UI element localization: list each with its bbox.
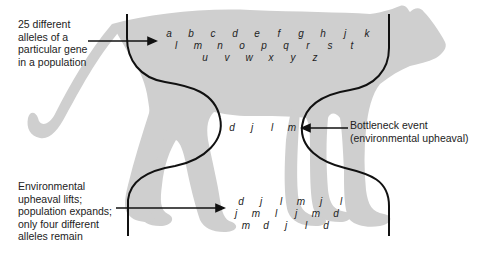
- allele: s: [319, 40, 341, 51]
- recovered-alleles-row-1: d j l m j l: [231, 196, 351, 207]
- allele: j: [276, 220, 296, 231]
- original-alleles-row-3: u v w x y z: [194, 52, 326, 63]
- label-line: only four different: [18, 218, 112, 231]
- allele: d: [316, 220, 336, 231]
- allele: q: [275, 40, 297, 51]
- allele: y: [282, 52, 304, 63]
- allele: t: [341, 40, 363, 51]
- allele: m: [282, 122, 302, 133]
- allele: l: [262, 122, 282, 133]
- label-line: upheaval lifts;: [18, 193, 112, 206]
- allele: j: [251, 196, 271, 207]
- label-line: Environmental: [18, 180, 112, 193]
- allele: f: [268, 28, 290, 39]
- allele: j: [334, 28, 356, 39]
- label-line: 25 different: [18, 18, 87, 31]
- allele: m: [187, 40, 209, 51]
- allele: m: [306, 208, 326, 219]
- allele: d: [326, 208, 346, 219]
- allele: v: [216, 52, 238, 63]
- allele: d: [222, 122, 242, 133]
- label-line: Bottleneck event: [350, 119, 468, 132]
- allele: j: [311, 196, 331, 207]
- allele: l: [165, 40, 187, 51]
- bottleneck-alleles-row: d j l m: [222, 122, 302, 133]
- allele: k: [356, 28, 378, 39]
- allele: g: [290, 28, 312, 39]
- allele: a: [158, 28, 180, 39]
- allele: r: [297, 40, 319, 51]
- label-line: in a population: [18, 56, 87, 69]
- label-line: population expands;: [18, 205, 112, 218]
- recovered-alleles-row-3: m d j l d: [236, 220, 336, 231]
- label-line: alleles remain: [18, 230, 112, 243]
- allele: e: [246, 28, 268, 39]
- allele: j: [286, 208, 306, 219]
- allele: m: [246, 208, 266, 219]
- allele: d: [224, 28, 246, 39]
- allele: h: [312, 28, 334, 39]
- allele: w: [238, 52, 260, 63]
- allele: j: [242, 122, 262, 133]
- allele: l: [271, 196, 291, 207]
- allele: l: [266, 208, 286, 219]
- allele: m: [291, 196, 311, 207]
- allele: l: [331, 196, 351, 207]
- original-population-label: 25 different alleles of a particular gen…: [18, 18, 87, 68]
- bottleneck-event-label: Bottleneck event (environmental upheaval…: [350, 119, 468, 144]
- bottleneck-diagram: 25 different alleles of a particular gen…: [0, 0, 489, 254]
- allele: o: [231, 40, 253, 51]
- allele: d: [256, 220, 276, 231]
- allele: z: [304, 52, 326, 63]
- allele: p: [253, 40, 275, 51]
- original-alleles-row-2: l m n o p q r s t: [165, 40, 363, 51]
- allele: l: [296, 220, 316, 231]
- allele: d: [231, 196, 251, 207]
- label-line: alleles of a: [18, 31, 87, 44]
- allele: m: [236, 220, 256, 231]
- allele: x: [260, 52, 282, 63]
- allele: j: [226, 208, 246, 219]
- recovered-alleles-row-2: j m l j m d: [226, 208, 346, 219]
- allele: b: [180, 28, 202, 39]
- label-line: particular gene: [18, 43, 87, 56]
- allele: n: [209, 40, 231, 51]
- label-line: (environmental upheaval): [350, 132, 468, 145]
- original-alleles-row-1: a b c d e f g h j k: [158, 28, 378, 39]
- recovered-population-label: Environmental upheaval lifts; population…: [18, 180, 112, 243]
- allele: c: [202, 28, 224, 39]
- allele: u: [194, 52, 216, 63]
